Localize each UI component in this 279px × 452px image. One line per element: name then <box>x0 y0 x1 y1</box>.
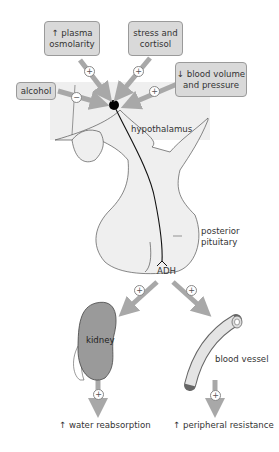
box-text: alcohol <box>17 86 55 97</box>
stimulus-plasma-osmolarity: ↑ plasma osmolarity <box>44 21 100 56</box>
kidney-label: kidney <box>86 335 115 346</box>
box-text: ↓ blood volume <box>176 69 246 80</box>
pituitary-label: pituitary <box>201 237 237 248</box>
inhibit-sign: − <box>71 92 82 103</box>
stimulate-sign: + <box>149 86 160 97</box>
stimulate-sign: + <box>133 66 144 77</box>
outcome-peripheral-resistance: ↑ peripheral resistance <box>173 420 274 431</box>
adh-regulation-diagram: ↑ plasma osmolarity stress and cortisol … <box>0 0 279 452</box>
outcome-water-reabsorption: ↑ water reabsorption <box>59 420 151 431</box>
box-text: ↑ plasma <box>45 28 99 39</box>
stimulate-sign: + <box>84 66 95 77</box>
stimulate-sign: + <box>134 285 145 296</box>
optic-chiasm <box>72 130 103 162</box>
box-text: and pressure <box>176 80 246 91</box>
stimulate-sign: + <box>93 389 104 400</box>
neuron-cell-body <box>109 100 119 110</box>
hypothalamus-label: hypothalamus <box>131 124 192 135</box>
blood-vessel-label: blood vessel <box>215 354 269 365</box>
stimulate-sign: + <box>186 285 197 296</box>
box-text: cortisol <box>129 39 182 50</box>
stimulus-stress-cortisol: stress and cortisol <box>128 21 183 56</box>
stimulate-sign: + <box>210 390 221 401</box>
posterior-label: posterior <box>201 226 240 237</box>
box-text: osmolarity <box>45 39 99 50</box>
adh-label: ADH <box>157 266 176 277</box>
stimulus-alcohol: alcohol <box>16 82 56 100</box>
stimulus-blood-volume: ↓ blood volume and pressure <box>175 62 247 97</box>
box-text: stress and <box>129 28 182 39</box>
adh-arrows <box>98 282 215 408</box>
